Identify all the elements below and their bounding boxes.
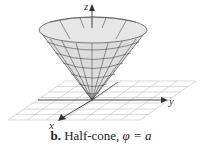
y-axis-arrow-icon <box>161 97 168 103</box>
caption-text: Half-cone, <box>64 128 122 143</box>
half-cone-diagram <box>0 0 202 149</box>
figure-caption: b. Half-cone, φ = a <box>0 128 202 144</box>
caption-equation: φ = a <box>123 128 152 143</box>
figure-label: b. <box>50 128 60 143</box>
y-axis-label: y <box>169 95 174 107</box>
z-axis-label: z <box>84 0 88 12</box>
z-axis-arrow-icon <box>89 4 95 11</box>
